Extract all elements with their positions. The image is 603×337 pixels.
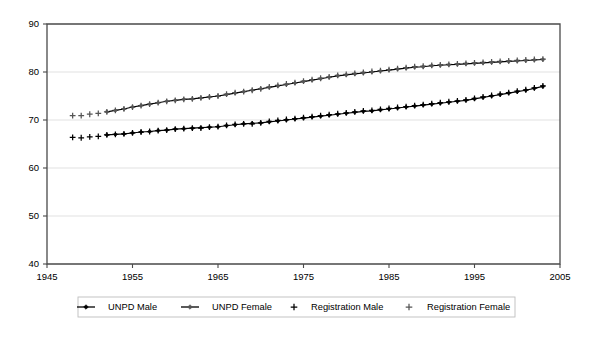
- data-point-diamond: [524, 88, 528, 92]
- y-axis: 405060708090: [28, 18, 47, 269]
- data-point-diamond: [532, 86, 536, 90]
- data-point-diamond: [302, 80, 306, 84]
- data-point-diamond: [396, 106, 400, 110]
- data-point-diamond: [498, 93, 502, 97]
- data-point-diamond: [430, 102, 434, 106]
- data-point-diamond: [284, 82, 288, 86]
- data-point-diamond: [156, 129, 160, 133]
- data-point-diamond: [438, 101, 442, 105]
- chart-legend: UNPD MaleUNPD FemaleRegistration MaleReg…: [77, 297, 515, 317]
- data-point-diamond: [207, 125, 211, 129]
- data-point-diamond: [302, 116, 306, 120]
- data-point-diamond: [156, 101, 160, 105]
- data-point-diamond: [353, 110, 357, 114]
- data-point-diamond: [276, 119, 280, 123]
- data-point-diamond: [207, 95, 211, 99]
- data-point-diamond: [122, 132, 126, 136]
- y-tick-label: 40: [28, 258, 39, 269]
- data-point-diamond: [327, 113, 331, 117]
- data-point-diamond: [182, 127, 186, 131]
- data-point-diamond: [259, 87, 263, 91]
- data-point-diamond: [148, 102, 152, 106]
- data-point-diamond: [139, 130, 143, 134]
- chart-container: 4050607080901945195519651975198519952005…: [0, 0, 603, 337]
- data-point-diamond: [378, 69, 382, 73]
- x-tick-label: 1945: [36, 271, 57, 282]
- data-point-diamond: [225, 124, 229, 128]
- data-point-diamond: [216, 94, 220, 98]
- data-point-diamond: [242, 90, 246, 94]
- data-point-diamond: [344, 111, 348, 115]
- data-point-diamond: [344, 73, 348, 77]
- series-unpd-male: [105, 84, 545, 136]
- data-point-diamond: [319, 114, 323, 118]
- data-point-diamond: [284, 118, 288, 122]
- data-point-plus: [95, 133, 101, 139]
- data-point-plus: [78, 113, 84, 119]
- data-point-diamond: [310, 115, 314, 119]
- data-point-diamond: [190, 97, 194, 101]
- data-point-diamond: [464, 62, 468, 66]
- data-point-diamond: [336, 74, 340, 78]
- data-point-diamond: [490, 94, 494, 98]
- data-point-diamond: [190, 126, 194, 130]
- data-point-diamond: [165, 128, 169, 132]
- series-line-path: [107, 86, 543, 134]
- legend-label: UNPD Female: [212, 302, 272, 312]
- data-point-diamond: [498, 60, 502, 64]
- data-point-diamond: [173, 127, 177, 131]
- data-point-diamond: [387, 107, 391, 111]
- x-axis: 1945195519651975198519952005: [36, 264, 570, 282]
- data-point-diamond: [216, 125, 220, 129]
- data-point-diamond: [361, 109, 365, 113]
- data-point-diamond: [131, 131, 135, 135]
- data-point-diamond: [225, 93, 229, 97]
- y-tick-label: 70: [28, 114, 39, 125]
- data-point-diamond: [199, 126, 203, 130]
- grid-lines: [47, 72, 560, 216]
- data-point-diamond: [515, 59, 519, 63]
- data-point-diamond: [242, 122, 246, 126]
- data-point-plus: [87, 134, 93, 140]
- data-point-diamond: [481, 95, 485, 99]
- data-point-diamond: [515, 90, 519, 94]
- data-point-diamond: [319, 77, 323, 81]
- data-point-diamond: [541, 58, 545, 62]
- data-point-plus: [78, 135, 84, 141]
- line-chart: 4050607080901945195519651975198519952005…: [0, 0, 603, 337]
- x-tick-label: 1985: [378, 271, 399, 282]
- data-point-diamond: [327, 75, 331, 79]
- data-point-plus: [70, 134, 76, 140]
- data-point-diamond: [250, 88, 254, 92]
- data-point-diamond: [165, 99, 169, 103]
- data-point-diamond: [464, 98, 468, 102]
- data-point-diamond: [293, 81, 297, 85]
- x-tick-label: 2005: [549, 271, 570, 282]
- data-point-diamond: [293, 117, 297, 121]
- data-point-diamond: [413, 65, 417, 69]
- legend-label: UNPD Male: [108, 302, 157, 312]
- data-point-diamond: [455, 99, 459, 103]
- y-tick-label: 50: [28, 210, 39, 221]
- data-point-plus: [95, 110, 101, 116]
- data-point-diamond: [370, 109, 374, 113]
- data-point-diamond: [541, 84, 545, 88]
- data-point-diamond: [310, 78, 314, 82]
- data-point-diamond: [387, 68, 391, 72]
- data-point-diamond: [507, 59, 511, 63]
- data-point-diamond: [421, 65, 425, 69]
- x-tick-label: 1955: [122, 271, 143, 282]
- data-point-diamond: [490, 60, 494, 64]
- data-point-diamond: [421, 103, 425, 107]
- data-point-diamond: [267, 120, 271, 124]
- data-point-diamond: [233, 91, 237, 95]
- data-point-diamond: [438, 63, 442, 67]
- y-tick-label: 60: [28, 162, 39, 173]
- data-point-diamond: [413, 104, 417, 108]
- data-point-diamond: [105, 110, 109, 114]
- data-point-diamond: [182, 97, 186, 101]
- data-point-diamond: [353, 72, 357, 76]
- data-point-diamond: [233, 123, 237, 127]
- data-point-diamond: [131, 105, 135, 109]
- data-point-diamond: [430, 64, 434, 68]
